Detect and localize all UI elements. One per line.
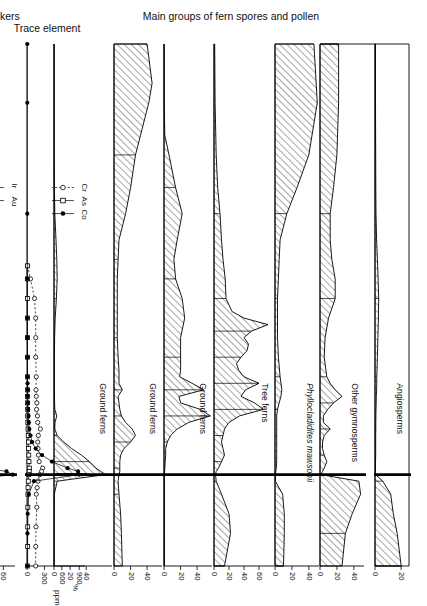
group-header-trace-element: Trace element — [14, 22, 81, 34]
pollen-curve-angiosperms — [375, 44, 401, 566]
trace-point-co — [26, 512, 30, 516]
panel-title-tree-ferns: Tree ferns — [260, 383, 270, 422]
trace-axis-tick-cr-as-co-0: 0 — [23, 572, 32, 576]
trace-point-cr — [34, 407, 38, 411]
trace-point-as — [27, 460, 31, 464]
trace-point-as — [26, 479, 30, 483]
trace-point-co — [34, 446, 38, 450]
trace-series-line-ir — [0, 44, 13, 566]
trace-point-cr — [34, 394, 38, 398]
pollen-axis-tick-other-gymnosperms-40: 40 — [350, 572, 359, 580]
pollen-axis-tick-tree-ferns-0: 0 — [210, 572, 219, 576]
trace-point-co — [25, 564, 29, 568]
trace-point-cr — [32, 296, 36, 300]
group-header-kt-boundary-markers: K/T boundary markers — [0, 10, 20, 22]
panel-title-ground-ferns-1: Ground ferns — [198, 383, 208, 434]
trace-point-co — [32, 479, 36, 483]
trace-point-cr — [34, 375, 38, 379]
pollen-percent-unit: % — [71, 584, 80, 591]
trace-point-co — [25, 336, 29, 340]
legend-label-cr: Cr — [80, 184, 89, 192]
pollen-axis-tick-ground-ferns-1-20: 20 — [177, 572, 186, 580]
trace-point-co — [28, 433, 32, 437]
pollen-axis-tick-phyllocladidites-mawsonii-40: 40 — [305, 572, 314, 580]
pollen-axis-tick-ground-ferns-2-20: 20 — [127, 572, 136, 580]
pollen-axis-tick-angiosperms-0: 0 — [371, 572, 380, 576]
trace-point-co — [66, 466, 70, 470]
trace-point-cr — [37, 460, 41, 464]
group-header-pollen: Main groups of fern spores and pollen — [143, 10, 319, 22]
pollen-curve-ground-ferns-3 — [54, 44, 106, 566]
trace-point-co — [27, 492, 31, 496]
pollen-axis-tick-phyllocladidites-mawsonii-0: 0 — [271, 572, 280, 576]
legend-label-ir: Ir — [10, 184, 19, 189]
trace-point-cr — [34, 336, 38, 340]
trace-point-co — [27, 427, 31, 431]
trace-point-co — [25, 531, 29, 535]
pollen-axis-tick-tree-ferns-20: 20 — [225, 572, 234, 580]
trace-axis-tick-cr-as-co-900: 900 — [75, 572, 84, 585]
panel-title-ground-ferns-2: Ground ferns — [148, 383, 158, 434]
legend-label-co: Co — [80, 210, 89, 220]
trace-point-cr — [35, 401, 39, 405]
pollen-axis-tick-ground-ferns-1-40: 40 — [193, 572, 202, 580]
trace-point-co — [40, 453, 44, 457]
trace-point-as — [27, 453, 31, 457]
trace-axis-tick-cr-as-co-600: 600 — [58, 572, 67, 585]
trace-point-cr — [34, 316, 38, 320]
pollen-axis-tick-other-gymnosperms-20: 20 — [333, 572, 342, 580]
trace-point-cr — [34, 355, 38, 359]
pollen-axis-tick-tree-ferns-40: 40 — [240, 572, 249, 580]
trace-point-cr — [34, 564, 38, 568]
pollen-axis-tick-ground-ferns-2-0: 0 — [110, 572, 119, 576]
pollen-curve-tree-ferns — [214, 44, 268, 566]
pollen-axis-tick-phyllocladidites-mawsonii-20: 20 — [288, 572, 297, 580]
panel-title-other-gymnosperms: Other gymnosperms — [350, 383, 360, 462]
trace-point-as — [26, 440, 30, 444]
trace-axis-tick-cr-as-co-300: 300 — [40, 572, 49, 585]
panel-title-angiosperms: Angiosperms — [395, 383, 405, 434]
pollen-axis-tick-ground-ferns-2-40: 40 — [143, 572, 152, 580]
trace-unit-cr-as-co: ppm — [53, 590, 62, 606]
trace-point-ir — [4, 469, 8, 473]
trace-point-co — [26, 401, 30, 405]
pollen-curve-phyllocladidites-mawsonii — [275, 44, 317, 566]
trace-point-co — [26, 388, 30, 392]
trace-point-cr — [35, 414, 39, 418]
trace-point-co — [25, 101, 29, 105]
trace-point-cr — [35, 486, 39, 490]
legend-label-au: Au — [10, 197, 19, 207]
trace-point-cr — [34, 525, 38, 529]
trace-point-co — [27, 420, 31, 424]
trace-point-co — [25, 355, 29, 359]
trace-point-co — [26, 407, 30, 411]
pollen-axis-tick-ground-ferns-1-0: 0 — [160, 572, 169, 576]
pollen-axis-tick-other-gymnosperms-0: 0 — [316, 572, 325, 576]
trace-point-co — [25, 277, 29, 281]
legend-label-as: As — [80, 197, 89, 206]
trace-point-cr — [36, 433, 40, 437]
panel-title-ground-ferns-3: Ground ferns — [98, 383, 108, 434]
trace-point-co — [30, 440, 34, 444]
trace-point-cr — [36, 420, 40, 424]
trace-point-co — [25, 381, 29, 385]
pollen-curve-other-gymnosperms — [320, 44, 361, 566]
trace-axis-tick-ir-au-60: 60 — [0, 572, 8, 580]
trace-point-co — [26, 414, 30, 418]
trace-point-co — [25, 375, 29, 379]
panel-title-phyllocladidites-mawsonii: Phyllocladidites mawsonii — [305, 383, 315, 482]
pollen-curve-ground-ferns-1 — [164, 44, 210, 566]
trace-point-cr — [34, 492, 38, 496]
trace-point-cr — [38, 427, 42, 431]
trace-point-cr — [36, 453, 40, 457]
trace-point-co — [25, 316, 29, 320]
pollen-axis-tick-ground-ferns-3-20: 20 — [66, 572, 75, 580]
trace-point-co — [26, 394, 30, 398]
trace-point-as — [27, 447, 31, 451]
trace-point-cr — [34, 544, 38, 548]
trace-point-cr — [35, 505, 39, 509]
pollen-axis-tick-tree-ferns-60: 60 — [255, 572, 264, 580]
trace-point-co — [25, 42, 29, 46]
